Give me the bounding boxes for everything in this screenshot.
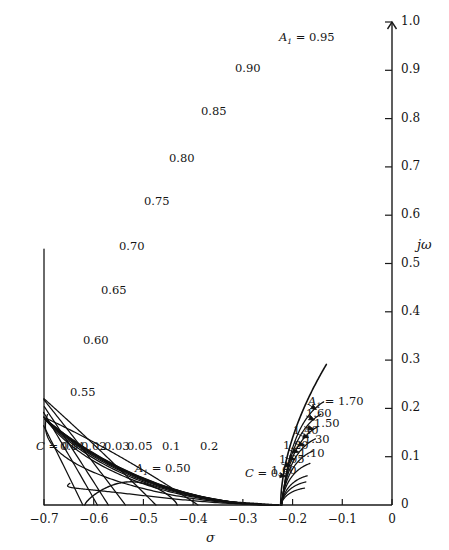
curve-label: 0.70	[119, 241, 145, 253]
curve-label: 1.00	[271, 465, 297, 477]
curve-label: 0.85	[201, 106, 227, 118]
curve-label: 0.90	[235, 63, 261, 75]
y-tick-label: 0.2	[401, 401, 420, 413]
y-tick-label: 0.8	[401, 112, 420, 124]
x-tick-label: −0.7	[29, 513, 59, 525]
y-tick-label: 0.6	[401, 208, 420, 220]
chart-canvas	[0, 0, 449, 550]
axis-layer	[44, 22, 397, 505]
curve-label: 0.03	[104, 441, 130, 453]
curve-label: A1 = 0.50	[135, 463, 191, 477]
x-axis-title: σ	[206, 531, 215, 544]
x-tick-label: −0.6	[79, 513, 109, 525]
x-tick-label: −0.5	[128, 513, 158, 525]
y-tick-label: 0.9	[401, 63, 420, 75]
curve-label: 0.65	[101, 285, 127, 297]
chart-root: A1 = 0.950.900.850.800.750.700.650.600.5…	[0, 0, 449, 550]
curve-label: 0.2	[200, 441, 218, 453]
y-tick-label: 0.7	[401, 160, 420, 172]
x-tick-label: −0.1	[327, 513, 357, 525]
curve-label: 0.55	[70, 387, 96, 399]
curve-label: 0.05	[127, 441, 153, 453]
y-tick-label: 0.5	[401, 257, 420, 269]
x-tick-label: −0.4	[178, 513, 208, 525]
x-tick-label: 0	[377, 513, 407, 525]
y-tick-label: 0	[401, 498, 409, 510]
curve-label: 0.02	[81, 441, 107, 453]
x-tick-label: −0.2	[278, 513, 308, 525]
y-tick-label: 0.1	[401, 450, 420, 462]
x-tick-label: −0.3	[228, 513, 258, 525]
y-tick-label: 0.4	[401, 305, 420, 317]
y-axis-title: jω	[417, 238, 432, 251]
curve-label: A1 = 0.95	[279, 32, 335, 46]
curve-label: 0.80	[169, 153, 195, 165]
y-tick-label: 1.0	[401, 15, 420, 27]
curve-label: 0.75	[144, 196, 170, 208]
y-tick-label: 0.3	[401, 353, 420, 365]
curve-label: 0.1	[162, 441, 180, 453]
curve-label: 0.60	[83, 335, 109, 347]
